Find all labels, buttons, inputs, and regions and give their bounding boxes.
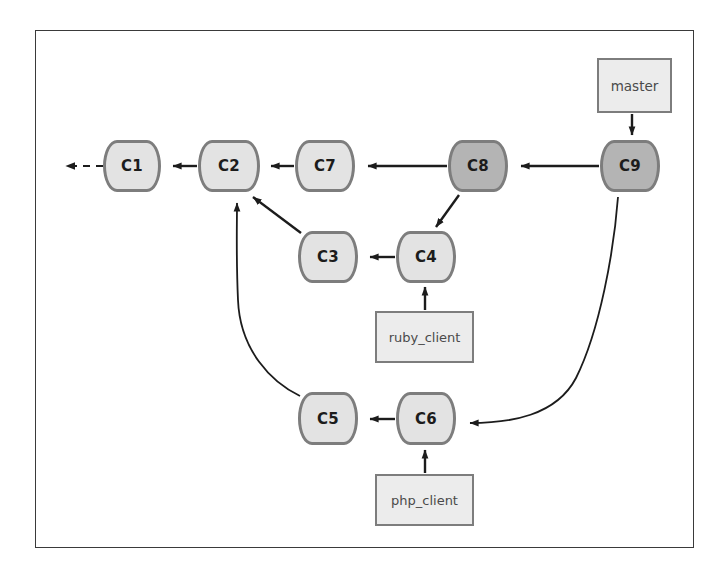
commit-node-c7[interactable]: C7 [295, 140, 355, 192]
commit-node-c1[interactable]: C1 [103, 140, 161, 192]
branch-label-text: ruby_client [389, 330, 461, 345]
branch-label-master[interactable]: master [597, 58, 672, 113]
commit-label: C5 [317, 410, 339, 428]
commit-label: C3 [317, 248, 339, 266]
commit-node-c8[interactable]: C8 [448, 140, 508, 192]
commit-label: C6 [415, 410, 437, 428]
branch-label-text: master [611, 78, 659, 94]
commit-node-c2[interactable]: C2 [198, 140, 260, 192]
commit-node-c9[interactable]: C9 [600, 140, 660, 192]
commit-label: C2 [218, 157, 240, 175]
branch-label-php-client[interactable]: php_client [375, 474, 474, 526]
commit-label: C4 [415, 248, 437, 266]
commit-node-c6[interactable]: C6 [396, 392, 456, 445]
branch-label-text: php_client [391, 493, 458, 508]
branch-label-ruby-client[interactable]: ruby_client [375, 311, 474, 363]
commit-node-c5[interactable]: C5 [298, 392, 358, 445]
commit-label: C1 [121, 157, 143, 175]
commit-label: C7 [314, 157, 336, 175]
diagram-frame [35, 30, 694, 548]
commit-label: C8 [467, 157, 489, 175]
commit-label: C9 [619, 157, 641, 175]
commit-node-c3[interactable]: C3 [298, 231, 358, 283]
diagram-canvas: C1 C2 C7 C8 C9 C3 C4 C5 C6 master ruby_c… [0, 0, 727, 576]
commit-node-c4[interactable]: C4 [396, 231, 456, 283]
